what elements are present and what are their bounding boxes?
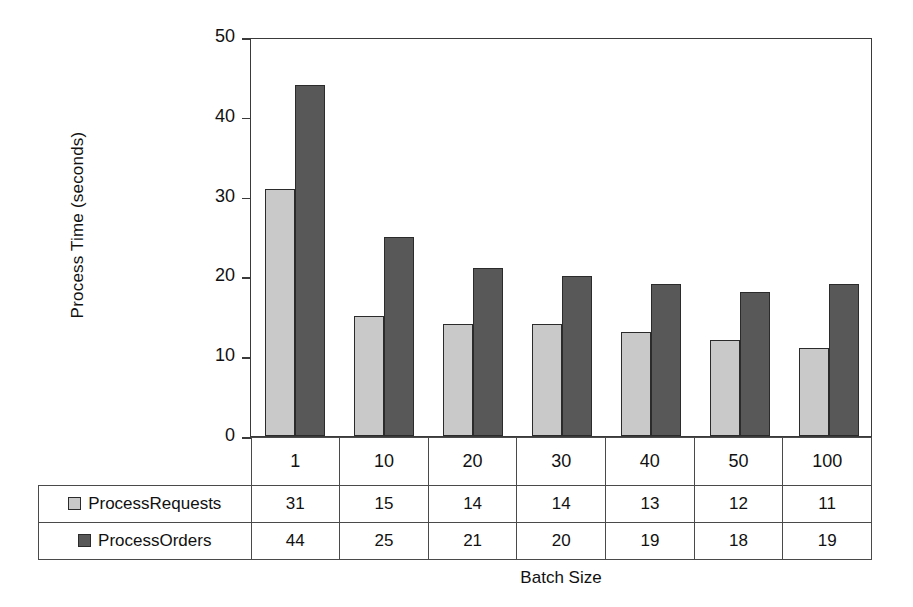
bar-group xyxy=(518,39,607,436)
bar[interactable] xyxy=(829,284,859,436)
bar[interactable] xyxy=(799,348,829,436)
bar[interactable] xyxy=(384,237,414,437)
table-value-cell: 44 xyxy=(251,523,340,560)
table-row: ProcessRequests31151414131211 xyxy=(39,486,872,523)
y-tick-mark xyxy=(242,118,251,120)
legend-label: ProcessRequests xyxy=(88,494,221,513)
light-gray-swatch xyxy=(68,497,81,510)
category-header-cell: 100 xyxy=(783,438,872,486)
plot-area: 01020304050 xyxy=(250,38,872,437)
table-row-categories: 11020304050100 xyxy=(39,438,872,486)
table-value-cell: 19 xyxy=(783,523,872,560)
bar-group xyxy=(429,39,518,436)
bar[interactable] xyxy=(473,268,503,436)
table-row: ProcessOrders44252120191819 xyxy=(39,523,872,560)
category-header-cell: 10 xyxy=(340,438,429,486)
category-header-cell: 30 xyxy=(517,438,606,486)
y-tick-label: 50 xyxy=(175,26,235,47)
y-tick-mark xyxy=(242,198,251,200)
table-value-cell: 19 xyxy=(606,523,695,560)
x-axis-title: Batch Size xyxy=(250,568,872,588)
table-corner-cell xyxy=(39,438,252,486)
bar[interactable] xyxy=(710,340,740,436)
y-tick-mark xyxy=(242,38,251,40)
y-axis-title: Process Time (seconds) xyxy=(68,55,88,395)
bar-group xyxy=(251,39,340,436)
bar-series-container xyxy=(251,39,871,436)
bar[interactable] xyxy=(354,316,384,436)
table-value-cell: 11 xyxy=(783,486,872,523)
category-header-cell: 20 xyxy=(428,438,517,486)
legend-cell[interactable]: ProcessRequests xyxy=(39,486,252,523)
y-tick-label: 40 xyxy=(175,106,235,127)
bar-group xyxy=(606,39,695,436)
bar[interactable] xyxy=(265,189,295,436)
table-value-cell: 14 xyxy=(428,486,517,523)
bar[interactable] xyxy=(532,324,562,436)
bar[interactable] xyxy=(443,324,473,436)
category-header-cell: 1 xyxy=(251,438,340,486)
category-header-cell: 40 xyxy=(606,438,695,486)
bar-group xyxy=(340,39,429,436)
table-value-cell: 12 xyxy=(694,486,783,523)
table-value-cell: 21 xyxy=(428,523,517,560)
table-value-cell: 20 xyxy=(517,523,606,560)
table-value-cell: 25 xyxy=(340,523,429,560)
data-table: 11020304050100ProcessRequests31151414131… xyxy=(38,437,872,560)
category-header-cell: 50 xyxy=(694,438,783,486)
legend-cell[interactable]: ProcessOrders xyxy=(39,523,252,560)
table-value-cell: 14 xyxy=(517,486,606,523)
bar[interactable] xyxy=(651,284,681,436)
bar-group xyxy=(695,39,784,436)
y-tick-label: 10 xyxy=(175,345,235,366)
bar[interactable] xyxy=(740,292,770,436)
bar[interactable] xyxy=(295,85,325,436)
y-tick-label: 20 xyxy=(175,265,235,286)
table-value-cell: 18 xyxy=(694,523,783,560)
dark-gray-swatch xyxy=(78,534,91,547)
y-tick-mark xyxy=(242,277,251,279)
table-value-cell: 13 xyxy=(606,486,695,523)
legend-label: ProcessOrders xyxy=(98,531,211,550)
table-value-cell: 31 xyxy=(251,486,340,523)
bar[interactable] xyxy=(562,276,592,436)
bar-group xyxy=(784,39,873,436)
y-tick-label: 30 xyxy=(175,186,235,207)
table-value-cell: 15 xyxy=(340,486,429,523)
bar-chart-figure: Process Time (seconds) 01020304050 11020… xyxy=(0,0,913,607)
y-tick-mark xyxy=(242,357,251,359)
bar[interactable] xyxy=(621,332,651,436)
